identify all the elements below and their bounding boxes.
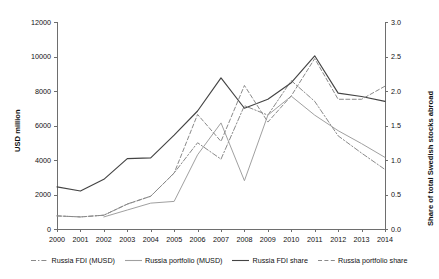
y-tick-label-left: 0 [15,225,51,234]
y-tick-right [385,126,388,127]
y-tick-label-left: 10000 [15,52,51,61]
x-tick [198,229,199,232]
y-tick-label-right: 3.0 [391,18,421,27]
legend-swatch-icon [31,257,48,264]
y-tick-label-left: 12000 [15,18,51,27]
x-tick [127,229,128,232]
y-tick-left [54,22,57,23]
y-tick-label-right: 2.0 [391,87,421,96]
y-tick-right [385,195,388,196]
legend-label: Russia FDI (MUSD) [51,256,115,265]
x-tick [244,229,245,232]
y-tick-left [54,195,57,196]
series-line-0 [57,81,385,217]
y-tick-label-left: 4000 [15,156,51,165]
legend-label: Russia portfolio (MUSD) [145,256,222,265]
x-tick [221,229,222,232]
x-tick [80,229,81,232]
legend-swatch-icon [125,257,142,264]
legend-label: Russia FDI share [252,256,308,265]
x-tick [385,229,386,232]
legend-item-1[interactable]: Russia portfolio (MUSD) [125,256,222,265]
legend-label: Russia portfolio share [338,256,408,265]
x-tick [104,229,105,232]
legend-item-3[interactable]: Russia portfolio share [318,256,408,265]
y-axis-left [57,22,58,230]
legend-item-2[interactable]: Russia FDI share [232,256,308,265]
x-tick [151,229,152,232]
x-tick [362,229,363,232]
series-line-3 [57,59,385,217]
y-tick-label-right: 2.5 [391,52,421,61]
y-tick-left [54,160,57,161]
y-tick-right [385,22,388,23]
y-tick-right [385,57,388,58]
x-tick [57,229,58,232]
y-tick-label-right: 0.0 [391,225,421,234]
y-tick-label-left: 2000 [15,190,51,199]
y-tick-label-right: 1.5 [391,121,421,130]
series-line-2 [57,56,385,191]
y-axis-right-title: Share of total Swedish stocks abroad [426,91,435,226]
legend-swatch-icon [232,257,249,264]
x-tick-label: 2014 [370,235,400,244]
x-tick [338,229,339,232]
legend-item-0[interactable]: Russia FDI (MUSD) [31,256,115,265]
y-tick-right [385,91,388,92]
legend-swatch-icon [318,257,335,264]
chart-container: 020004000600080001000012000 0.00.51.01.5… [0,0,439,279]
y-tick-label-right: 0.5 [391,190,421,199]
x-tick [315,229,316,232]
series-line-1 [104,96,385,217]
y-tick-label-left: 8000 [15,87,51,96]
x-tick [174,229,175,232]
y-tick-left [54,57,57,58]
x-tick [291,229,292,232]
y-tick-left [54,126,57,127]
chart-legend: Russia FDI (MUSD)Russia portfolio (MUSD)… [0,252,439,268]
x-tick [268,229,269,232]
y-tick-left [54,91,57,92]
y-axis-left-title: USD million [13,109,22,152]
y-tick-right [385,160,388,161]
y-tick-label-right: 1.0 [391,156,421,165]
